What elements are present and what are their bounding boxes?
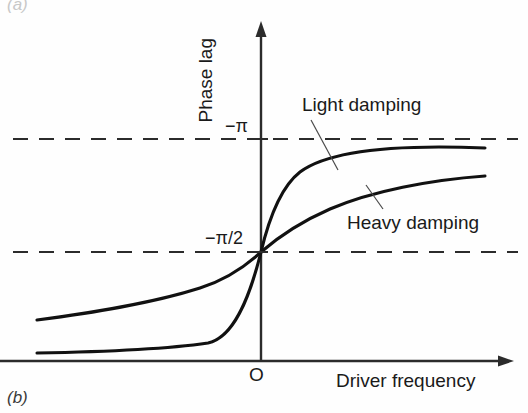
curve-label-light-damping: Light damping	[302, 95, 421, 114]
origin-label: O	[249, 365, 264, 384]
curve-label-heavy-damping: Heavy damping	[347, 213, 479, 232]
x-axis-title: Driver frequency	[336, 371, 475, 390]
y-axis-title: Phase lag	[196, 38, 215, 123]
y-tick-label-minus-pi: −π	[225, 117, 248, 135]
phase-lag-plot	[0, 0, 528, 413]
y-axis-arrowhead-icon	[256, 21, 267, 37]
x-axis-arrowhead-icon	[498, 356, 514, 367]
panel-label-b: (b)	[7, 389, 28, 406]
y-tick-label-minus-pi-half: −π/2	[205, 229, 243, 247]
figure-container: (a) (b) Phase lag Driver frequency −π −π…	[0, 0, 528, 413]
panel-label-a: (a)	[7, 0, 28, 13]
